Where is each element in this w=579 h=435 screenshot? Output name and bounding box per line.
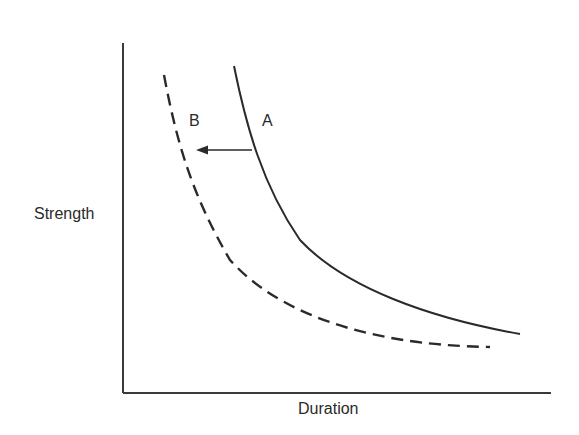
y-axis-label: Strength — [34, 205, 94, 223]
curve-a — [234, 66, 520, 334]
arrow-head-icon — [196, 146, 208, 155]
x-axis-label: Duration — [298, 400, 358, 418]
curve-a-label: A — [262, 112, 273, 130]
curve-b-label: B — [189, 112, 200, 130]
curve-b — [164, 75, 490, 347]
